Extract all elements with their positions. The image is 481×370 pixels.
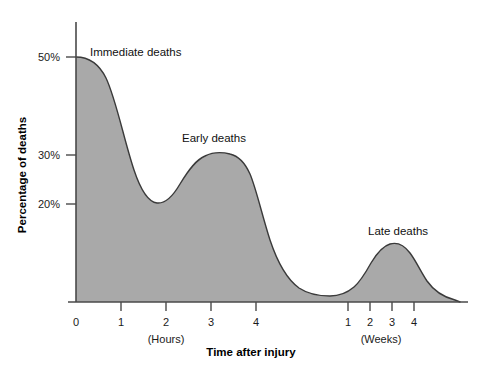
annotation-immediate-deaths: Immediate deaths (90, 46, 182, 58)
x-tick-label-hours-3: 3 (208, 316, 214, 328)
annotation-late-deaths: Late deaths (368, 225, 428, 237)
x-axis-title: Time after injury (206, 346, 296, 358)
area-fill (76, 57, 460, 302)
x-axis-unit-hours: (Hours) (148, 333, 185, 345)
x-tick-label-weeks-3: 3 (389, 316, 395, 328)
x-axis-ticks-hours (121, 302, 256, 311)
x-tick-label-hours-0: 0 (73, 316, 79, 328)
chart-container: 50% 30% 20% 0 1 2 3 4 1 2 3 4 (Hours) (W… (0, 0, 481, 370)
x-tick-label-weeks-4: 4 (411, 316, 417, 328)
y-axis-ticks (66, 57, 76, 204)
y-tick-label-20: 20% (38, 198, 60, 210)
x-tick-label-hours-2: 2 (163, 316, 169, 328)
x-tick-label-hours-1: 1 (118, 316, 124, 328)
y-axis-title: Percentage of deaths (16, 117, 28, 233)
trimodal-death-distribution-chart: 50% 30% 20% 0 1 2 3 4 1 2 3 4 (Hours) (W… (0, 0, 481, 370)
x-axis-ticks-weeks (348, 302, 414, 311)
y-tick-label-30: 30% (38, 149, 60, 161)
x-axis-unit-weeks: (Weeks) (361, 333, 402, 345)
x-tick-label-weeks-1: 1 (345, 316, 351, 328)
x-tick-label-weeks-2: 2 (367, 316, 373, 328)
annotation-early-deaths: Early deaths (182, 132, 246, 144)
x-tick-label-hours-4: 4 (253, 316, 259, 328)
y-tick-label-50: 50% (38, 51, 60, 63)
